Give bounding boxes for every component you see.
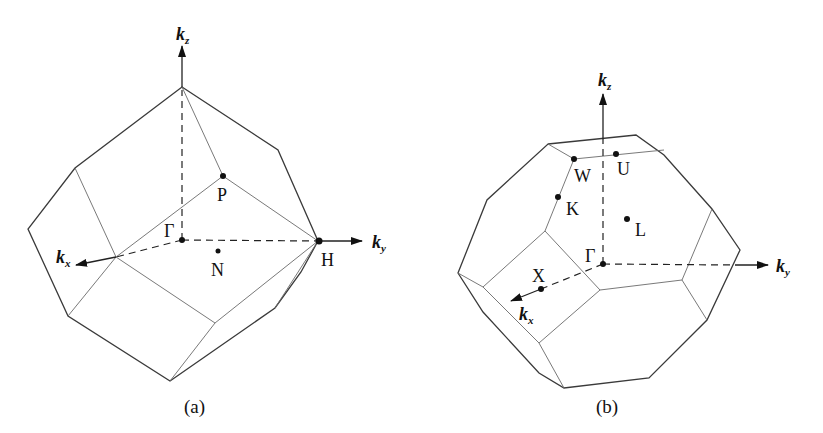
k-label: K — [566, 199, 579, 219]
fcc-outline — [458, 135, 740, 388]
w-point — [571, 156, 577, 162]
kz-label: kz — [598, 70, 612, 92]
p-label: P — [217, 185, 227, 205]
h-point — [316, 238, 323, 245]
l-label: L — [635, 220, 646, 240]
gamma-point — [179, 237, 185, 243]
kx-label: kx — [56, 247, 71, 269]
n-point — [216, 249, 221, 254]
l-point — [624, 216, 630, 222]
k-point — [555, 194, 561, 200]
x-point — [538, 286, 544, 292]
ky-label: ky — [776, 256, 790, 278]
kx-label: kx — [519, 304, 534, 326]
p-point — [220, 173, 226, 179]
u-point — [613, 151, 619, 157]
figure-a-bcc-zone: kz ky kx Γ P N H (a) — [28, 24, 386, 418]
figure-a-caption: (a) — [184, 396, 205, 418]
kz-label: kz — [176, 24, 190, 46]
gamma-label: Γ — [585, 246, 595, 266]
kx-axis-dashed — [541, 264, 603, 289]
kx-axis-arrow — [511, 289, 541, 301]
ky-axis-dashed — [603, 264, 735, 265]
n-label: N — [211, 260, 224, 280]
x-label: X — [532, 266, 545, 286]
bcc-inner-edges — [68, 87, 318, 381]
gamma-label: Γ — [164, 221, 174, 241]
figure-b-caption: (b) — [596, 396, 618, 418]
gamma-point — [600, 261, 606, 267]
w-label: W — [574, 166, 591, 186]
brillouin-zones-diagram: kz ky kx Γ P N H (a) — [0, 0, 823, 433]
kx-axis-dashed — [116, 240, 182, 257]
figure-b-fcc-zone: kz ky kx Γ W U K L X (b) — [458, 70, 790, 418]
ky-label: ky — [372, 232, 386, 254]
ky-axis-dashed — [182, 240, 318, 241]
h-label: H — [321, 250, 334, 270]
u-label: U — [617, 159, 630, 179]
